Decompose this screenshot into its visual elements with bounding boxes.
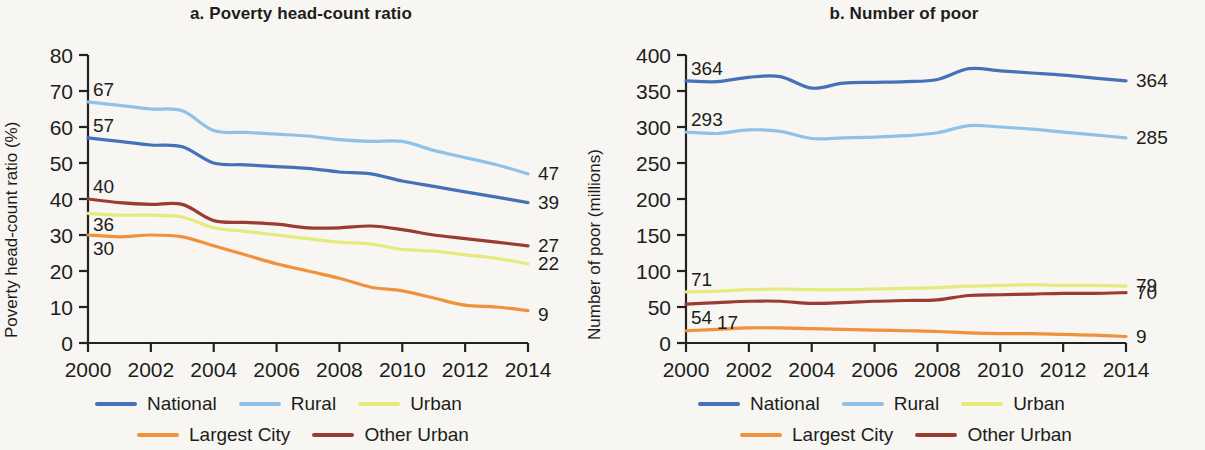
x-tick-label: 2010	[379, 358, 426, 381]
start-label-largest-city: 30	[93, 238, 114, 259]
legend-label-rural: Rural	[894, 393, 939, 415]
legend-swatch-other-urban	[915, 433, 957, 437]
legend-swatch-urban	[358, 402, 400, 406]
start-label-urban: 71	[691, 269, 712, 290]
x-tick-label: 2004	[788, 358, 835, 381]
end-label-largest-city: 9	[1136, 326, 1147, 347]
start-label-other-urban: 40	[93, 176, 114, 197]
end-label-other-urban: 27	[538, 235, 559, 256]
x-tick-label: 2008	[316, 358, 363, 381]
x-tick-label: 2012	[442, 358, 489, 381]
start-label-largest-city: 17	[717, 312, 738, 333]
legend-label-largest-city: Largest City	[792, 424, 893, 446]
start-label-urban: 36	[93, 214, 114, 235]
start-label-national: 57	[93, 115, 114, 136]
series-line-largest-city	[686, 328, 1126, 337]
x-tick-label: 2002	[725, 358, 772, 381]
legend-swatch-rural	[239, 402, 281, 406]
y-tick-label: 20	[50, 260, 73, 283]
legend-label-other-urban: Other Urban	[364, 424, 469, 446]
legend-swatch-national	[95, 402, 137, 406]
panel-b-legend: National Rural Urban Largest City	[698, 388, 1168, 450]
x-tick-label: 2014	[505, 358, 552, 381]
legend-label-national: National	[147, 393, 217, 415]
y-tick-label: 50	[50, 152, 73, 175]
legend-swatch-national	[698, 402, 740, 406]
start-label-national: 364	[691, 58, 723, 79]
legend-row-2: Largest City Other Urban	[95, 419, 565, 450]
panel-b: b. Number of poor Number of poor (millio…	[603, 0, 1205, 450]
legend-swatch-largest-city	[137, 433, 179, 437]
end-label-urban: 22	[538, 253, 559, 274]
legend-row-1: National Rural Urban	[95, 388, 565, 419]
x-tick-label: 2008	[914, 358, 961, 381]
end-label-rural: 285	[1136, 127, 1168, 148]
panel-a-chart: 0102030405060708020002002200420062008201…	[0, 0, 602, 380]
start-label-other-urban: 54	[691, 307, 713, 328]
legend-swatch-rural	[842, 402, 884, 406]
y-tick-label: 350	[636, 80, 671, 103]
x-tick-label: 2014	[1103, 358, 1150, 381]
x-tick-label: 2000	[663, 358, 710, 381]
y-tick-label: 250	[636, 152, 671, 175]
y-tick-label: 70	[50, 80, 73, 103]
y-tick-label: 300	[636, 116, 671, 139]
legend-label-other-urban: Other Urban	[967, 424, 1072, 446]
y-tick-label: 400	[636, 44, 671, 67]
legend-swatch-urban	[961, 402, 1003, 406]
x-tick-label: 2000	[65, 358, 112, 381]
legend-row-1: National Rural Urban	[698, 388, 1168, 419]
x-tick-label: 2006	[851, 358, 898, 381]
legend-item-urban[interactable]: Urban	[358, 393, 462, 415]
legend-item-rural[interactable]: Rural	[842, 393, 939, 415]
legend-item-national[interactable]: National	[95, 393, 217, 415]
y-tick-label: 30	[50, 224, 73, 247]
legend-item-other-urban[interactable]: Other Urban	[312, 424, 469, 446]
series-line-national	[88, 138, 528, 203]
series-line-rural	[686, 125, 1126, 139]
legend-label-national: National	[750, 393, 820, 415]
end-label-national: 39	[538, 192, 559, 213]
legend-item-national[interactable]: National	[698, 393, 820, 415]
y-tick-label: 150	[636, 224, 671, 247]
legend-swatch-other-urban	[312, 433, 354, 437]
series-line-other-urban	[686, 293, 1126, 305]
legend-row-2: Largest City Other Urban	[698, 419, 1168, 450]
y-tick-label: 40	[50, 188, 73, 211]
x-tick-label: 2012	[1040, 358, 1087, 381]
legend-item-urban[interactable]: Urban	[961, 393, 1065, 415]
series-line-largest-city	[88, 235, 528, 311]
x-tick-label: 2004	[190, 358, 237, 381]
legend-item-rural[interactable]: Rural	[239, 393, 336, 415]
x-tick-label: 2006	[253, 358, 300, 381]
y-tick-label: 0	[61, 332, 73, 355]
legend-swatch-largest-city	[740, 433, 782, 437]
panel-a-legend: National Rural Urban Largest City	[95, 388, 565, 450]
legend-label-urban: Urban	[410, 393, 462, 415]
end-label-largest-city: 9	[538, 304, 549, 325]
legend-item-largest-city[interactable]: Largest City	[740, 424, 893, 446]
y-tick-label: 10	[50, 296, 73, 319]
series-line-urban	[686, 285, 1126, 292]
end-label-national: 364	[1136, 70, 1168, 91]
y-tick-label: 60	[50, 116, 73, 139]
end-label-other-urban: 70	[1136, 282, 1157, 303]
start-label-rural: 293	[691, 109, 723, 130]
legend-label-rural: Rural	[291, 393, 336, 415]
y-tick-label: 100	[636, 260, 671, 283]
panel-b-y-axis-label: Number of poor (millions)	[585, 40, 605, 340]
panel-a: a. Poverty head-count ratio Poverty head…	[0, 0, 602, 450]
y-tick-label: 50	[648, 296, 671, 319]
y-tick-label: 0	[659, 332, 671, 355]
panel-b-chart: 0501001502002503003504002000200220042006…	[603, 0, 1205, 380]
legend-item-largest-city[interactable]: Largest City	[137, 424, 290, 446]
poverty-figure: a. Poverty head-count ratio Poverty head…	[0, 0, 1205, 450]
end-label-rural: 47	[538, 163, 559, 184]
legend-label-largest-city: Largest City	[189, 424, 290, 446]
legend-item-other-urban[interactable]: Other Urban	[915, 424, 1072, 446]
start-label-rural: 67	[93, 79, 114, 100]
x-tick-label: 2010	[977, 358, 1024, 381]
x-tick-label: 2002	[127, 358, 174, 381]
y-tick-label: 80	[50, 44, 73, 67]
legend-label-urban: Urban	[1013, 393, 1065, 415]
